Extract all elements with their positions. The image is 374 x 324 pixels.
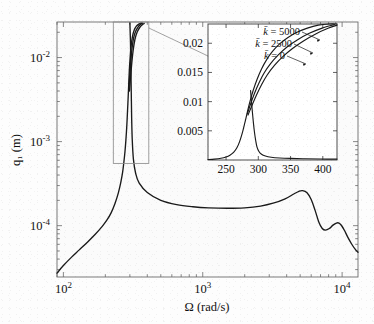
- inset-y-tick-label: 0.01: [183, 96, 203, 108]
- frequency-response-chart: 102103104 10-210-310-4 Ω (rad/s) q₁ (m) …: [0, 0, 374, 324]
- inset-annotation-k2500: k̄ = 2500: [255, 38, 292, 49]
- inset-y-tick-label: 0.015: [177, 66, 203, 78]
- y-axis-label: q₁ (m): [9, 134, 23, 166]
- inset-x-tick-label: 350: [282, 163, 300, 175]
- inset-annotation-k5000: k̄ = 5000: [263, 26, 300, 37]
- inset-y-tick-label: 0.02: [183, 37, 203, 49]
- inset-x-tick-label: 400: [314, 163, 332, 175]
- inset-x-tick-label: 250: [217, 163, 235, 175]
- figure-container: 102103104 10-210-310-4 Ω (rad/s) q₁ (m) …: [0, 0, 374, 324]
- inset-annotation-k0: k̄ = 0: [264, 50, 285, 61]
- inset-y-tick-label: 0.005: [177, 125, 203, 137]
- x-axis-label: Ω (rad/s): [184, 300, 229, 314]
- inset-x-tick-label: 300: [250, 163, 268, 175]
